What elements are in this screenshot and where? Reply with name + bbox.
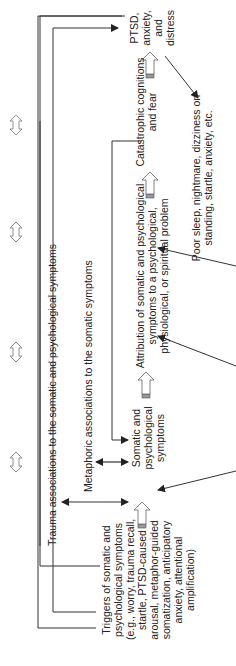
metaphoric-association-label: Metaphoric associations to the somatic s… [82,260,94,492]
double-hollow-arrow [10,452,22,472]
double-hollow-arrow [10,115,22,135]
diagram-canvas: Trauma associations to the somatic and p… [0,0,236,666]
double-hollow-arrow [10,222,22,242]
node-attribution: Attribution of somatic and psychological… [134,176,170,376]
node-poor-sleep: Poor sleep, nightmare, dizziness on stan… [190,88,214,268]
node-triggers: Triggers of somatic and psychological sy… [100,520,196,640]
node-catastrophic: Catastrophic cognitions and fear [134,52,158,172]
trauma-association-label: Trauma associations to the somatic and p… [46,244,58,546]
node-ptsd: PTSD, anxiety, and distress [128,2,176,54]
double-hollow-arrow [10,342,22,362]
node-somatic-psychological: Somatic and psychological symptoms [130,400,166,476]
poor-sleep-to-triggers-arrow [158,471,236,490]
